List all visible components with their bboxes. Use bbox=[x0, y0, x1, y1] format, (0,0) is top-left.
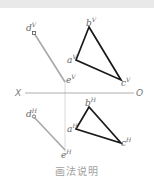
triangle-abc-v bbox=[76, 27, 121, 80]
label-c-h: cH bbox=[121, 136, 132, 148]
label-a-h: aH bbox=[67, 122, 78, 134]
axis-x-label: X bbox=[14, 88, 22, 98]
axis-o-label: O bbox=[136, 88, 143, 98]
label-c-v: cV bbox=[121, 76, 131, 88]
figure-caption: 画法说明 bbox=[0, 163, 154, 178]
top-view: dV eV bV aV cV bbox=[26, 16, 131, 88]
point-d-v bbox=[33, 32, 36, 35]
label-a-v: aV bbox=[67, 53, 77, 65]
label-e-v: eV bbox=[66, 73, 76, 85]
label-d-h: dH bbox=[26, 107, 38, 119]
label-e-h: eH bbox=[61, 148, 72, 160]
label-b-h: bH bbox=[85, 96, 97, 108]
label-b-v: bV bbox=[86, 16, 97, 28]
bottom-view: dH eH bH aH cH bbox=[26, 96, 132, 160]
projection-diagram: X O dV eV bV aV cV dH eH bH aH cH bbox=[0, 0, 154, 180]
segment-de-v bbox=[34, 33, 65, 82]
point-d-h bbox=[32, 115, 35, 118]
triangle-abc-h bbox=[76, 107, 121, 143]
segment-de-h bbox=[34, 117, 65, 150]
